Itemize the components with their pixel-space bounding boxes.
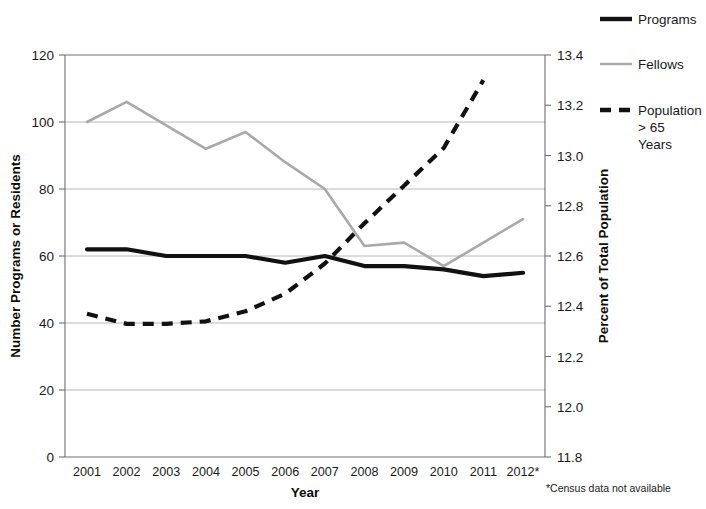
left-axis-tick-label: 120 [31, 48, 54, 63]
series-line-programs [87, 249, 523, 276]
x-axis-tick-label: 2008 [350, 465, 378, 479]
legend: Programs Fellows Population > 65 Years [600, 12, 702, 152]
x-axis-tick-label: 2009 [390, 465, 418, 479]
gridlines-group [65, 122, 545, 390]
series-line-population [87, 80, 483, 324]
x-axis-tick-label: 2002 [113, 465, 141, 479]
x-axis-tick-label: 2010 [430, 465, 458, 479]
right-axis-tick-label: 12.4 [557, 299, 584, 314]
line-chart-svg: 020406080100120 11.812.012.212.412.612.8… [0, 0, 706, 509]
x-axis-tick-label: 2005 [232, 465, 260, 479]
x-axis-tick-label: 2003 [152, 465, 180, 479]
right-axis-tick-label: 11.8 [557, 450, 582, 465]
right-axis-tick-label: 13.0 [557, 149, 583, 164]
footnote-census: *Census data not available [546, 482, 671, 494]
right-axis-ticks-group: 11.812.012.212.412.612.813.013.213.4 [545, 48, 584, 465]
right-axis-tick-label: 13.2 [557, 98, 583, 113]
left-axis-tick-label: 80 [39, 182, 54, 197]
left-axis-tick-label: 0 [46, 450, 54, 465]
chart-figure: 020406080100120 11.812.012.212.412.612.8… [0, 0, 706, 509]
legend-label-fellows: Fellows [638, 57, 684, 72]
right-axis-tick-label: 13.4 [557, 48, 584, 63]
right-axis-title: Percent of Total Population [596, 169, 611, 344]
right-axis-tick-label: 12.0 [557, 400, 583, 415]
x-axis-ticks-group: 2001200220032004200520062007200820092010… [73, 465, 540, 479]
left-axis-tick-label: 100 [31, 115, 54, 130]
legend-label-population: Population [638, 103, 702, 118]
legend-label-population-line2: > 65 [638, 120, 665, 135]
x-axis-tick-label: 2012* [507, 465, 540, 479]
legend-label-population-line3: Years [638, 137, 672, 152]
x-axis-tick-label: 2004 [192, 465, 220, 479]
right-axis-tick-label: 12.2 [557, 350, 583, 365]
x-axis-tick-label: 2001 [73, 465, 101, 479]
x-axis-tick-label: 2011 [470, 465, 497, 479]
x-axis-tick-label: 2007 [311, 465, 339, 479]
left-axis-title: Number Programs or Residents [8, 154, 23, 357]
left-axis-tick-label: 20 [39, 383, 54, 398]
left-axis-tick-label: 40 [39, 316, 54, 331]
left-axis-ticks-group: 020406080100120 [31, 48, 65, 465]
right-axis-tick-label: 12.8 [557, 199, 583, 214]
legend-label-programs: Programs [638, 12, 697, 27]
x-axis-title: Year [291, 485, 320, 500]
right-axis-tick-label: 12.6 [557, 249, 583, 264]
left-axis-tick-label: 60 [39, 249, 54, 264]
x-axis-tick-label: 2006 [271, 465, 299, 479]
